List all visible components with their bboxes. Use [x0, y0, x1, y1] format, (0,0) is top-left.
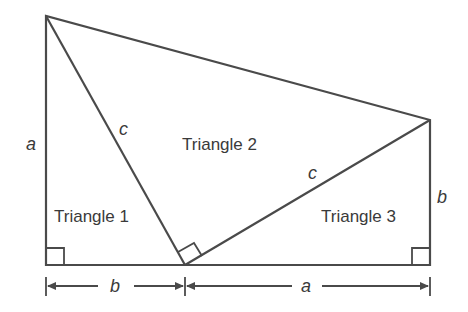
arrowhead-icon: [186, 282, 195, 290]
arrowhead-icon: [175, 282, 184, 290]
triangle-2-label: Triangle 2: [182, 135, 257, 154]
right-angle-marker-3: [412, 248, 430, 265]
dim-label-a: a: [301, 276, 311, 296]
side-label-b-right: b: [437, 187, 447, 207]
right-angle-marker-1: [46, 248, 64, 265]
side-label-a-left: a: [26, 134, 36, 154]
side-label-c-left: c: [119, 119, 128, 139]
side-label-c-right: c: [308, 163, 317, 183]
triangle-3-label: Triangle 3: [321, 207, 396, 226]
dim-label-b: b: [110, 276, 120, 296]
arrowhead-icon: [420, 282, 429, 290]
right-angle-marker-2: [178, 243, 202, 256]
diagram-canvas: Triangle 1 Triangle 2 Triangle 3 a c c b…: [0, 0, 468, 312]
triangle-1-label: Triangle 1: [54, 207, 129, 226]
hypotenuse-left: [46, 16, 185, 265]
arrowhead-icon: [47, 282, 56, 290]
